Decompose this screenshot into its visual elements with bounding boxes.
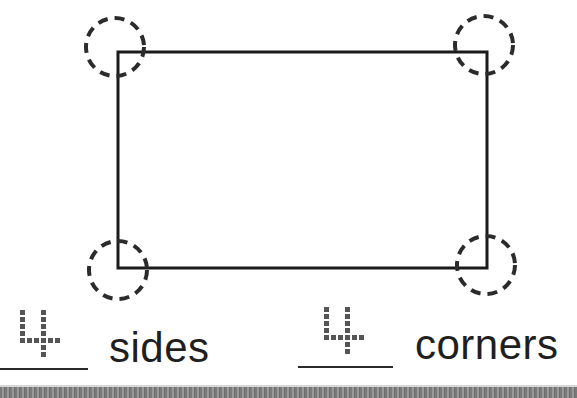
answer-sides: 4 sides	[0, 300, 280, 370]
dotted-digit-four	[322, 305, 366, 363]
rectangle-shape	[118, 52, 487, 268]
corner-marker-top-left	[86, 18, 144, 76]
corners-label: corners	[415, 324, 559, 366]
dotted-digit-four	[18, 308, 62, 366]
sides-label: sides	[109, 327, 210, 369]
corners-answer-line	[298, 366, 393, 368]
bottom-divider-band	[0, 387, 577, 398]
corner-marker-top-right	[455, 16, 513, 74]
sides-answer-line	[0, 368, 88, 370]
answer-corners: 4 corners	[280, 300, 577, 370]
